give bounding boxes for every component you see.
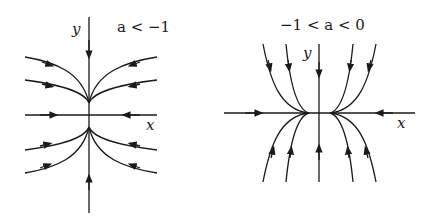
trajectory xyxy=(89,80,157,103)
trajectory xyxy=(330,113,376,182)
y-axis-label: y xyxy=(302,44,312,62)
trajectory xyxy=(330,44,353,113)
trajectory xyxy=(25,127,89,150)
y-axis-label: y xyxy=(71,20,81,38)
phase-portraits: y x a < −1 y x −1 < a < 0 xyxy=(0,0,435,223)
panel-right xyxy=(224,44,415,182)
condition-label: −1 < a < 0 xyxy=(280,16,365,34)
trajectory xyxy=(263,113,309,182)
trajectory xyxy=(25,57,89,103)
x-axis-label: x xyxy=(146,116,155,134)
trajectory xyxy=(89,57,157,103)
x-axis-label: x xyxy=(397,114,406,132)
trajectory xyxy=(330,113,353,182)
trajectory xyxy=(286,113,309,182)
trajectory xyxy=(25,80,89,103)
trajectory xyxy=(330,44,376,113)
trajectory xyxy=(25,127,89,173)
panel-left xyxy=(25,17,157,213)
condition-label: a < −1 xyxy=(117,18,170,36)
